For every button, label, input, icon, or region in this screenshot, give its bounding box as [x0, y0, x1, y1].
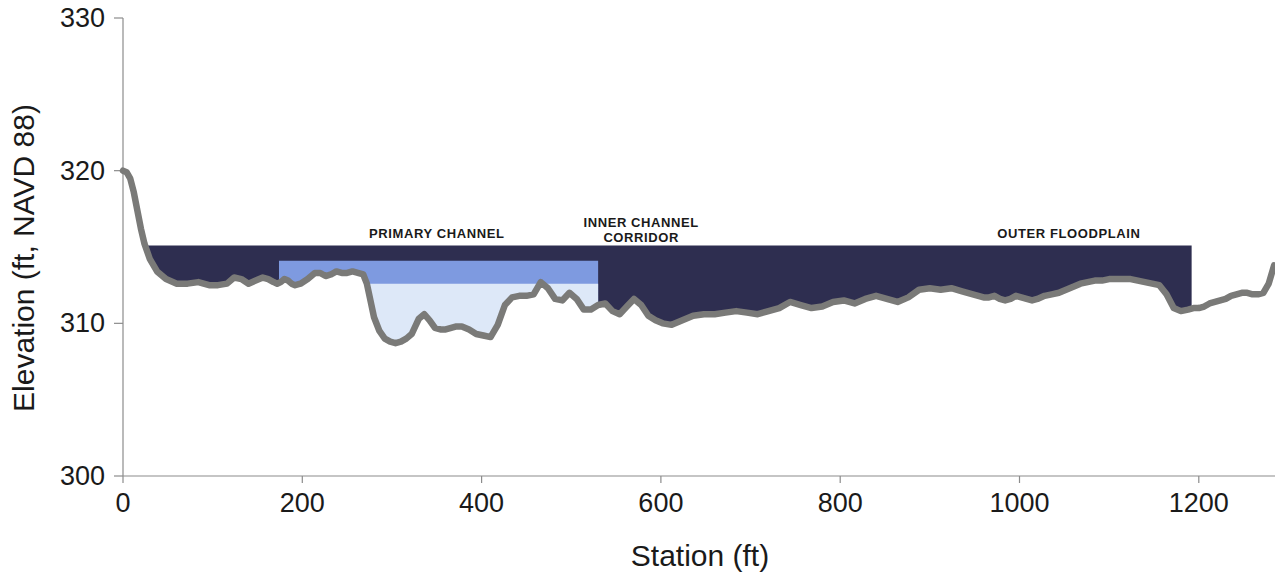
zone-label-line: CORRIDOR — [603, 230, 679, 245]
cross-section-chart: PRIMARY CHANNELINNER CHANNELCORRIDOROUTE… — [0, 0, 1275, 574]
x-tick-label: 0 — [115, 488, 130, 518]
zone-label-line: OUTER FLOODPLAIN — [997, 226, 1140, 241]
x-tick-label: 1200 — [1169, 488, 1229, 518]
zone-label-primary-channel: PRIMARY CHANNEL — [369, 226, 504, 241]
x-tick-label: 800 — [818, 488, 863, 518]
y-axis-title: Elevation (ft, NAVD 88) — [7, 104, 40, 412]
zone-label-line: INNER CHANNEL — [583, 215, 698, 230]
y-tick-label: 330 — [60, 3, 105, 33]
y-tick-label: 300 — [60, 461, 105, 491]
x-tick-label: 1000 — [989, 488, 1049, 518]
x-axis-title: Station (ft) — [631, 539, 769, 572]
y-tick-label: 310 — [60, 308, 105, 338]
x-tick-label: 400 — [459, 488, 504, 518]
y-tick-label: 320 — [60, 156, 105, 186]
chart-svg: PRIMARY CHANNELINNER CHANNELCORRIDOROUTE… — [0, 0, 1275, 574]
x-tick-label: 600 — [638, 488, 683, 518]
x-tick-label: 200 — [280, 488, 325, 518]
zone-label-outer-floodplain: OUTER FLOODPLAIN — [997, 226, 1140, 241]
zone-label-line: PRIMARY CHANNEL — [369, 226, 504, 241]
